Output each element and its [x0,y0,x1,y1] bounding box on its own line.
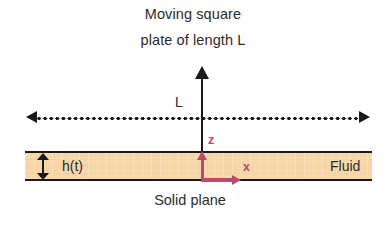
span-right-arrowhead-icon [359,111,370,123]
axis-x-arrowhead-icon [232,175,241,185]
film-thickness-label: h(t) [62,159,83,173]
squeeze-film-diagram: Moving square plate of length L L h(t) F… [0,0,386,225]
plate-length-label: L [175,95,183,109]
plate-length-dotted-line [36,117,360,120]
diagram-caption: Solid plane [0,193,380,208]
plate-motion-arrow-shaft [201,76,203,153]
axis-x-label: x [243,161,250,174]
fluid-region-label: Fluid [330,159,360,173]
thickness-arrowhead-down-icon [37,173,49,180]
axis-z-label: z [208,134,214,147]
axis-x-shaft [201,178,234,181]
axis-z-shaft [201,158,204,180]
diagram-title-line-1: Moving square [0,7,386,22]
diagram-title-line-2: plate of length L [0,33,386,48]
